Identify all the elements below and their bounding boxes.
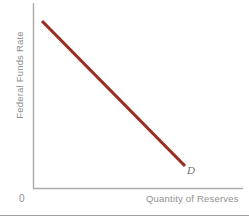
y-axis-label: Federal Funds Rate (13, 0, 27, 165)
demand-curve-line (42, 21, 185, 166)
origin-label: 0 (19, 193, 25, 205)
demand-curve-label: D (187, 164, 195, 177)
plot-area (0, 0, 249, 223)
x-axis-label: Quantity of Reserves (146, 193, 239, 205)
reserves-demand-figure: Federal Funds Rate Quantity of Reserves … (0, 0, 249, 223)
